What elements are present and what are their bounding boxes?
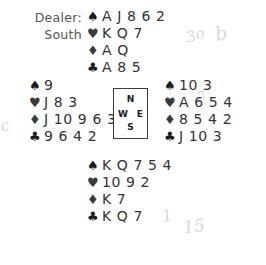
- west-hearts-row: ♥ J 8 3: [29, 94, 116, 111]
- west-diamonds-row: ♦ J 10 9 6 3: [29, 111, 116, 128]
- north-spades-cards: A J 8 6 2: [100, 9, 166, 24]
- spade-icon: ♠: [87, 10, 100, 23]
- east-clubs-cards: J 10 3: [177, 129, 222, 144]
- west-diamonds-cards: J 10 9 6 3: [42, 112, 116, 127]
- diamond-icon: ♦: [87, 193, 100, 206]
- south-clubs-cards: K Q 7: [100, 209, 143, 224]
- compass-box: N W E S: [113, 88, 148, 139]
- heart-icon: ♥: [29, 96, 42, 109]
- west-hearts-cards: J 8 3: [42, 95, 78, 110]
- compass-north-label: N: [114, 95, 147, 104]
- spade-icon: ♠: [29, 79, 42, 92]
- west-clubs-cards: 9 6 4 2: [42, 129, 97, 144]
- hand-north: ♠ A J 8 6 2 ♥ K Q 7 ♦ A Q ♣ A 8 5: [87, 8, 166, 76]
- east-spades-row: ♠ 10 3: [164, 77, 233, 94]
- compass-west-label: W: [118, 110, 128, 119]
- east-hearts-row: ♥ A 6 5 4: [164, 94, 233, 111]
- diamond-icon: ♦: [29, 113, 42, 126]
- south-clubs-row: ♣ K Q 7: [87, 208, 172, 225]
- south-diamonds-cards: K 7: [100, 192, 126, 207]
- dealer-label-text: Dealer:: [18, 9, 82, 26]
- west-clubs-row: ♣ 9 6 4 2: [29, 128, 116, 145]
- pencil-annotation-mark-1: 3o: [184, 24, 207, 47]
- hand-south: ♠ K Q 7 5 4 ♥ 10 9 2 ♦ K 7 ♣ K Q 7: [87, 157, 172, 225]
- compass-east-label: E: [137, 110, 143, 119]
- west-spades-cards: 9: [42, 78, 54, 93]
- south-diamonds-row: ♦ K 7: [87, 191, 172, 208]
- heart-icon: ♥: [87, 27, 100, 40]
- club-icon: ♣: [164, 130, 177, 143]
- spade-icon: ♠: [87, 159, 100, 172]
- east-diamonds-row: ♦ 8 5 4 2: [164, 111, 233, 128]
- south-spades-row: ♠ K Q 7 5 4: [87, 157, 172, 174]
- north-spades-row: ♠ A J 8 6 2: [87, 8, 166, 25]
- spade-icon: ♠: [164, 79, 177, 92]
- north-diamonds-cards: A Q: [100, 43, 129, 58]
- heart-icon: ♥: [87, 176, 100, 189]
- dealer-value-text: South: [18, 26, 82, 43]
- diamond-icon: ♦: [87, 44, 100, 57]
- east-clubs-row: ♣ J 10 3: [164, 128, 233, 145]
- north-clubs-row: ♣ A 8 5: [87, 59, 166, 76]
- south-hearts-cards: 10 9 2: [100, 175, 150, 190]
- compass-south-label: S: [114, 123, 147, 132]
- north-hearts-row: ♥ K Q 7: [87, 25, 166, 42]
- east-diamonds-cards: 8 5 4 2: [177, 112, 232, 127]
- diamond-icon: ♦: [164, 113, 177, 126]
- south-spades-cards: K Q 7 5 4: [100, 158, 172, 173]
- hand-west: ♠ 9 ♥ J 8 3 ♦ J 10 9 6 3 ♣ 9 6 4 2: [29, 77, 116, 145]
- hand-east: ♠ 10 3 ♥ A 6 5 4 ♦ 8 5 4 2 ♣ J 10 3: [164, 77, 233, 145]
- north-clubs-cards: A 8 5: [100, 60, 141, 75]
- east-hearts-cards: A 6 5 4: [177, 95, 233, 110]
- south-hearts-row: ♥ 10 9 2: [87, 174, 172, 191]
- east-spades-cards: 10 3: [177, 78, 213, 93]
- pencil-annotation-mark-5: c: [0, 115, 12, 136]
- pencil-annotation-mark-4: 15: [182, 215, 206, 238]
- club-icon: ♣: [29, 130, 42, 143]
- club-icon: ♣: [87, 210, 100, 223]
- north-diamonds-row: ♦ A Q: [87, 42, 166, 59]
- club-icon: ♣: [87, 61, 100, 74]
- north-hearts-cards: K Q 7: [100, 26, 143, 41]
- dealer-label: Dealer: South: [18, 9, 82, 43]
- heart-icon: ♥: [164, 96, 177, 109]
- pencil-annotation-mark-2: b: [213, 21, 229, 45]
- west-spades-row: ♠ 9: [29, 77, 116, 94]
